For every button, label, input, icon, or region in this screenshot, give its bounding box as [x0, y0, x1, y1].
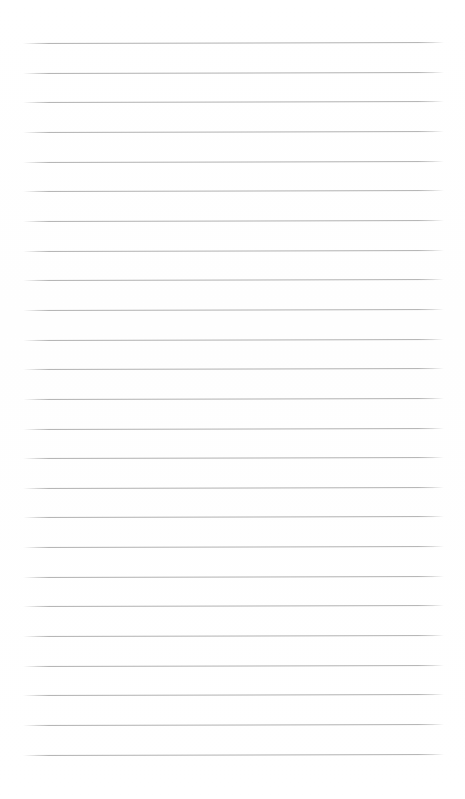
- rule-line: [23, 101, 444, 103]
- rule-line: [23, 131, 444, 133]
- rule-line: [23, 428, 444, 430]
- ruling-area: [0, 0, 465, 799]
- rule-line: [23, 635, 444, 637]
- rule-line: [23, 576, 444, 578]
- rule-line: [23, 339, 444, 341]
- rule-line: [23, 161, 444, 163]
- rule-line: [23, 72, 444, 74]
- rule-line: [23, 42, 444, 44]
- rule-line: [23, 517, 444, 519]
- rule-line: [23, 665, 444, 667]
- rule-line: [23, 368, 444, 370]
- rule-line: [23, 487, 444, 489]
- rule-line: [23, 398, 444, 400]
- rule-line: [23, 279, 444, 281]
- rule-line: [23, 546, 444, 548]
- rule-line: [23, 606, 444, 608]
- rule-line: [23, 457, 444, 459]
- rule-line: [23, 724, 444, 726]
- rule-line: [23, 220, 444, 222]
- rule-line: [23, 754, 444, 756]
- rule-line: [23, 309, 444, 311]
- rule-line: [23, 190, 444, 192]
- rule-line: [23, 250, 444, 252]
- rule-line: [23, 694, 444, 696]
- notebook-page: [0, 0, 465, 799]
